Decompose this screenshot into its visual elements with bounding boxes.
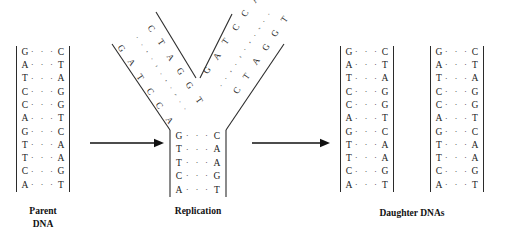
base-pair: G· · ·C (340, 46, 394, 59)
base-pair: A· · ·T (430, 112, 484, 125)
hydrogen-bond-icon: · · · (183, 171, 213, 180)
hydrogen-bond-icon: · · · (183, 158, 213, 167)
base-pair: A· · ·T (16, 179, 70, 192)
base-left: A (435, 114, 443, 124)
hydrogen-bond-icon: · · · (443, 167, 471, 176)
hydrogen-bond-icon: · · · (353, 114, 381, 123)
base-left: C (435, 88, 443, 98)
base-pair: A· · ·T (430, 179, 484, 192)
hydrogen-bond-icon: · · · (183, 185, 213, 194)
base-pair: C· · ·G (430, 86, 484, 99)
backbone-right-icon (483, 46, 484, 192)
hydrogen-bond-icon: · · · (29, 140, 57, 149)
base-left: G (21, 128, 29, 138)
hydrogen-bond-icon: · · · (443, 87, 471, 96)
hydrogen-bond-icon: · · · (443, 127, 471, 136)
base-pair: A· · ·T (16, 112, 70, 125)
base-right: T (57, 181, 65, 191)
base-right: G (57, 167, 65, 177)
base-pair: T· · ·A (430, 152, 484, 165)
base-pair: A· · ·T (340, 59, 394, 72)
base-right: A (57, 154, 65, 164)
base-right: C (213, 132, 221, 142)
daughter-dna-2-duplex: G· · ·CA· · ·TT· · ·AC· · ·GC· · ·GA· · … (430, 46, 484, 192)
base-pair: T· · ·A (16, 139, 70, 152)
hydrogen-bond-icon: · · · (353, 100, 381, 109)
hydrogen-bond-icon: · · · (29, 87, 57, 96)
backbone-right-icon (393, 46, 394, 192)
base-left: T (345, 154, 353, 164)
base-pair: A· · ·T (340, 179, 394, 192)
base-left: A (345, 181, 353, 191)
base-right: G (381, 88, 389, 98)
hydrogen-bond-icon: · · · (353, 60, 381, 69)
base-right: A (471, 154, 479, 164)
base-right: G (381, 101, 389, 111)
hydrogen-bond-icon: · · · (443, 114, 471, 123)
base-left: C (21, 88, 29, 98)
replication-stem-duplex: G· · ·CT· · ·AT· · ·AC· · ·GA· · ·T (170, 130, 226, 197)
base-left: C (435, 101, 443, 111)
base-pair: G· · ·C (430, 46, 484, 59)
base-left: C (345, 88, 353, 98)
hydrogen-bond-icon: · · · (29, 60, 57, 69)
base-left: A (435, 181, 443, 191)
base-left: C (345, 101, 353, 111)
base-right: T (57, 61, 65, 71)
base-right: T (471, 181, 479, 191)
base-pair: T· · ·A (170, 143, 226, 156)
base-left: T (435, 74, 443, 84)
hydrogen-bond-icon: · · · (183, 145, 213, 154)
dna-replication-diagram: G· · ·CA· · ·TT· · ·AC· · ·GC· · ·GA· · … (0, 0, 516, 247)
daughter-dnas-label: Daughter DNAs (352, 207, 472, 220)
base-left: C (21, 167, 29, 177)
base-right: G (57, 88, 65, 98)
hydrogen-bond-icon: · · · (29, 74, 57, 83)
base-pair: C· · ·G (16, 86, 70, 99)
replication-label: Replication (138, 205, 258, 218)
hydrogen-bond-icon: · · · (443, 180, 471, 189)
base-right: A (381, 141, 389, 151)
base-pair: T· · ·A (170, 157, 226, 170)
base-pair: C· · ·G (16, 166, 70, 179)
base-pair: C· · ·G (340, 99, 394, 112)
base-pair: T· · ·A (340, 73, 394, 86)
base-pair: T· · ·A (340, 139, 394, 152)
base-left: T (345, 141, 353, 151)
base-left: G (21, 48, 29, 58)
hydrogen-bond-icon: · · · (29, 167, 57, 176)
base-pair: C· · ·G (430, 166, 484, 179)
base-right: C (381, 128, 389, 138)
base-pair: T· · ·A (340, 152, 394, 165)
base-left: T (175, 159, 183, 169)
base-right: C (471, 48, 479, 58)
hydrogen-bond-icon: · · · (353, 153, 381, 162)
arrow-replication-to-daughters (252, 135, 330, 147)
base-left: C (345, 167, 353, 177)
hydrogen-bond-icon: · · · (443, 100, 471, 109)
base-right: T (471, 61, 479, 71)
base-left: T (435, 154, 443, 164)
hydrogen-bond-icon: · · · (443, 140, 471, 149)
base-pair: T· · ·A (16, 152, 70, 165)
base-right: T (381, 61, 389, 71)
hydrogen-bond-icon: · · · (353, 140, 381, 149)
hydrogen-bond-icon: · · · (353, 127, 381, 136)
base-left: C (435, 167, 443, 177)
backbone-right-icon (69, 46, 70, 192)
base-left: T (345, 74, 353, 84)
daughter-dna-1-duplex: G· · ·CA· · ·TT· · ·AC· · ·GC· · ·GA· · … (340, 46, 394, 192)
base-left: T (435, 141, 443, 151)
base-right: G (471, 101, 479, 111)
base-right: T (213, 186, 221, 196)
base-pair: A· · ·T (340, 112, 394, 125)
base-right: A (57, 74, 65, 84)
base-left: A (21, 181, 29, 191)
hydrogen-bond-icon: · · · (353, 180, 381, 189)
base-left: A (345, 61, 353, 71)
base-left: G (435, 128, 443, 138)
base-left: G (175, 132, 183, 142)
base-left: A (21, 61, 29, 71)
parent-dna-label: Parent DNA (8, 205, 78, 230)
backbone-left-icon (430, 46, 431, 192)
